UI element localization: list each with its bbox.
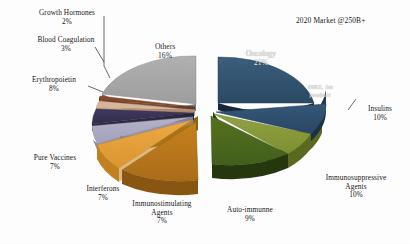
label-auto-immune-text: Auto-immunne: [227, 205, 273, 214]
label-pure-vaccines-text: Pure Vaccines: [34, 153, 76, 162]
pie-chart-figure: Growth Hormones 2% Blood Coagulation 3% …: [0, 0, 410, 244]
annotation-first-product: 1982, 1st product: [288, 83, 352, 100]
label-pure-vaccines-pct: 7%: [10, 163, 100, 172]
label-immunostimulating-text: Immunostimulating: [132, 199, 191, 208]
label-others: Others 16%: [133, 42, 197, 60]
label-immunosuppressive-agents: Immunosuppressive Agents 10%: [304, 174, 408, 200]
label-others-pct: 16%: [133, 51, 197, 60]
label-blood-coagulation-text: Blood Coagulation: [37, 35, 94, 44]
annotation-first-product-line1: 1982, 1st: [307, 83, 333, 91]
label-oncology-pct: 21%: [226, 58, 296, 67]
label-growth-hormones-pct: 2%: [12, 18, 122, 27]
annotation-first-product-line2: product: [288, 91, 352, 99]
label-blood-coagulation-pct: 3%: [10, 45, 122, 54]
label-others-text: Others: [155, 42, 175, 51]
label-pure-vaccines: Pure Vaccines 7%: [10, 154, 100, 171]
label-immunostimulating-agents: Immunostimulating Agents 7%: [116, 200, 208, 226]
label-auto-immune-pct: 9%: [203, 215, 297, 224]
label-immunosuppressive-pct: 10%: [304, 191, 408, 200]
chart-title: 2020 Market @250B+: [296, 16, 366, 25]
label-insulins-text: Insulins: [368, 104, 392, 113]
label-blood-coagulation: Blood Coagulation 3%: [10, 36, 122, 53]
label-erythropoietin: Erythropoietin 8%: [8, 76, 100, 93]
label-immunosuppressive-text: Immunosuppressive: [326, 173, 386, 182]
label-oncology-text: Oncology: [246, 49, 276, 58]
label-insulins: Insulins 10%: [352, 105, 408, 122]
label-insulins-pct: 10%: [352, 114, 408, 123]
label-oncology: Oncology 21%: [226, 49, 296, 67]
label-growth-hormones: Growth Hormones 2%: [12, 9, 122, 26]
label-growth-hormones-text: Growth Hormones: [39, 8, 95, 17]
label-erythropoietin-pct: 8%: [8, 85, 100, 94]
label-erythropoietin-text: Erythropoietin: [32, 75, 76, 84]
label-auto-immune: Auto-immunne 9%: [203, 206, 297, 223]
label-immunostimulating-pct: 7%: [116, 217, 208, 226]
label-interferons-text: Interferons: [86, 184, 119, 193]
